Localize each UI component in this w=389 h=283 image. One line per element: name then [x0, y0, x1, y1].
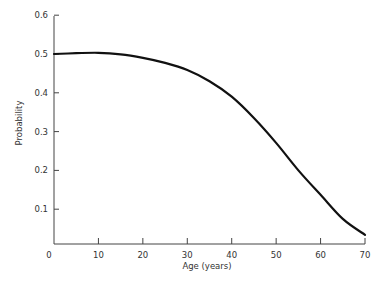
y-tick-label: 0.4: [34, 88, 48, 98]
probability-curve: [54, 53, 365, 235]
y-tick-label: 0.2: [34, 165, 48, 175]
x-axis-label: Age (years): [182, 261, 231, 271]
y-tick-label: 0.5: [34, 49, 48, 59]
x-tick-label: 60: [315, 250, 326, 260]
x-tick-label: 30: [182, 250, 193, 260]
y-axis-label: Probability: [14, 101, 24, 146]
x-tick-label: 10: [93, 250, 104, 260]
x-axis: 010203040506070: [46, 238, 370, 260]
x-tick-label: 40: [226, 250, 237, 260]
x-tick-label: 0: [46, 250, 51, 260]
x-tick-label: 50: [271, 250, 282, 260]
line-chart: 0.10.20.30.40.50.6 010203040506070 Age (…: [0, 0, 389, 283]
y-tick-label: 0.1: [34, 204, 48, 214]
chart-svg: 0.10.20.30.40.50.6 010203040506070 Age (…: [0, 0, 389, 283]
y-tick-label: 0.6: [34, 10, 48, 20]
x-tick-label: 70: [360, 250, 371, 260]
x-tick-label: 20: [137, 250, 148, 260]
y-axis: 0.10.20.30.40.50.6: [34, 10, 59, 244]
y-tick-label: 0.3: [34, 127, 48, 137]
